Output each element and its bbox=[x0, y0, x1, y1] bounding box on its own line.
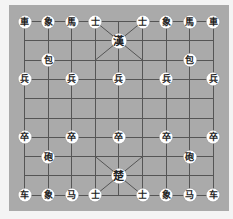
piece-bottom[interactable]: 象 bbox=[160, 189, 173, 202]
piece-bottom-king[interactable]: 楚 bbox=[111, 168, 126, 183]
piece-bottom[interactable]: 车 bbox=[207, 189, 220, 202]
piece-top[interactable]: 馬 bbox=[183, 15, 196, 28]
piece-top[interactable]: 士 bbox=[89, 15, 102, 28]
piece-top[interactable]: 兵 bbox=[160, 73, 173, 86]
piece-bottom[interactable]: 车 bbox=[18, 189, 31, 202]
piece-bottom[interactable]: 士 bbox=[89, 189, 102, 202]
piece-top[interactable]: 士 bbox=[136, 15, 149, 28]
piece-bottom[interactable]: 士 bbox=[136, 189, 149, 202]
piece-bottom[interactable]: 卒 bbox=[18, 131, 31, 144]
piece-top[interactable]: 兵 bbox=[207, 73, 220, 86]
piece-bottom[interactable]: 卒 bbox=[160, 131, 173, 144]
piece-bottom[interactable]: 马 bbox=[65, 189, 78, 202]
piece-top[interactable]: 象 bbox=[42, 15, 55, 28]
piece-bottom[interactable]: 马 bbox=[183, 189, 196, 202]
piece-top[interactable]: 包 bbox=[42, 54, 55, 67]
piece-top[interactable]: 象 bbox=[160, 15, 173, 28]
piece-bottom[interactable]: 卒 bbox=[112, 131, 125, 144]
piece-bottom[interactable]: 卒 bbox=[65, 131, 78, 144]
piece-top[interactable]: 兵 bbox=[18, 73, 31, 86]
piece-top[interactable]: 車 bbox=[18, 15, 31, 28]
piece-bottom[interactable]: 卒 bbox=[207, 131, 220, 144]
piece-top[interactable]: 包 bbox=[183, 54, 196, 67]
piece-top[interactable]: 兵 bbox=[112, 73, 125, 86]
piece-top-king[interactable]: 漢 bbox=[111, 33, 126, 48]
piece-bottom[interactable]: 砲 bbox=[42, 150, 55, 163]
piece-top[interactable]: 車 bbox=[207, 15, 220, 28]
piece-bottom[interactable]: 砲 bbox=[183, 150, 196, 163]
piece-top[interactable]: 馬 bbox=[65, 15, 78, 28]
piece-bottom[interactable]: 象 bbox=[42, 189, 55, 202]
piece-top[interactable]: 兵 bbox=[65, 73, 78, 86]
